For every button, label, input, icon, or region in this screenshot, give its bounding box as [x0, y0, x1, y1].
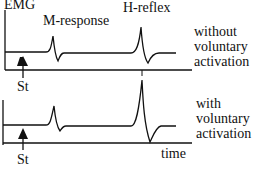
stimulus-label-top: St — [17, 80, 29, 94]
x-axis-label: time — [161, 147, 186, 161]
condition-line: activation — [196, 126, 251, 141]
stimulus-label-bottom: St — [17, 153, 29, 167]
condition-with-voluntary: with voluntary activation — [196, 96, 251, 141]
y-axis-label: EMG — [4, 0, 35, 12]
h-reflex-label: H-reflex — [123, 1, 170, 15]
top-emg-trace — [5, 27, 176, 63]
bottom-stimulus-arrow-icon — [18, 128, 28, 139]
condition-line: voluntary — [196, 111, 251, 126]
condition-line: without — [194, 24, 249, 39]
condition-line: with — [196, 96, 251, 111]
condition-line: voluntary — [194, 39, 249, 54]
condition-line: activation — [194, 54, 249, 69]
m-response-label: M-response — [43, 14, 109, 28]
condition-without-voluntary: without voluntary activation — [194, 24, 249, 69]
